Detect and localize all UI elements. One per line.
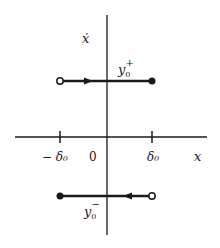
- arrow-left-icon: [123, 193, 132, 200]
- open-circle-icon: [149, 193, 155, 199]
- open-circle-icon: [57, 78, 63, 84]
- xdot-axis-label: ẋ: [82, 31, 90, 46]
- trajectory-y0-plus: [57, 78, 156, 85]
- filled-dot-icon: [57, 193, 64, 200]
- trajectory-y0-minus: [57, 193, 156, 200]
- filled-dot-icon: [149, 78, 156, 85]
- x-axis-label: x: [194, 149, 202, 164]
- neg-delta-label: − δ₀: [42, 150, 68, 164]
- pos-delta-label: δ₀: [147, 150, 159, 164]
- y0-plus-label: y0+: [117, 57, 134, 79]
- y0-minus-label: y0−: [83, 199, 100, 221]
- arrow-right-icon: [84, 78, 93, 85]
- phase-plane-diagram: ẋ x 0 − δ₀ δ₀ y0+ y0−: [0, 0, 220, 248]
- origin-label: 0: [89, 150, 97, 164]
